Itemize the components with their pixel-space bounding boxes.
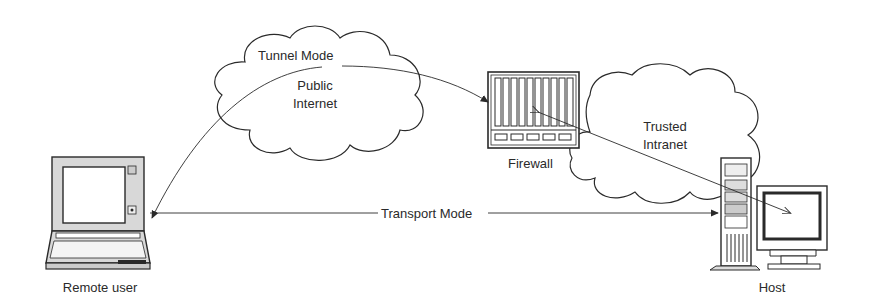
public-internet-label-line1: Public	[297, 79, 332, 92]
trusted-intranet-label-line1: Trusted	[643, 120, 687, 133]
firewall-label: Firewall	[508, 157, 553, 170]
public-internet-cloud	[215, 26, 423, 160]
tunnel-mode-label: Tunnel Mode	[258, 49, 333, 62]
public-internet-label-line2: Internet	[293, 97, 337, 110]
transport-mode-label: Transport Mode	[381, 207, 472, 220]
diagram-canvas	[0, 0, 872, 305]
host-label: Host	[759, 281, 786, 294]
trusted-intranet-label-line2: Intranet	[643, 138, 687, 151]
host-computer-icon	[710, 158, 827, 270]
laptop-icon	[46, 157, 150, 269]
firewall-icon	[488, 72, 579, 148]
remote-user-label: Remote user	[63, 281, 137, 294]
